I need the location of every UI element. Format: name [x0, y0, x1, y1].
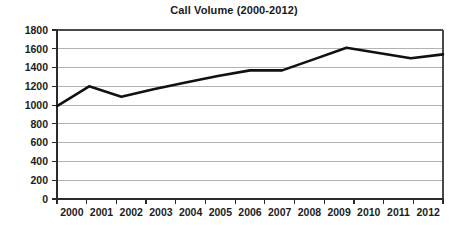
x-axis-tick-label: 2012 — [416, 206, 440, 218]
x-axis-tick-label: 2004 — [179, 206, 203, 218]
chart-figure: Call Volume (2000-2012) 1800160014001200… — [0, 0, 468, 232]
gridlines-group — [57, 49, 443, 180]
y-axis-labels-group: 180016001400120010008006004002000 — [25, 24, 49, 205]
x-axis-tick-label: 2001 — [90, 206, 114, 218]
y-axis-tick-label: 1200 — [25, 80, 49, 92]
x-axis-tick-label: 2005 — [209, 206, 233, 218]
x-axis-tick-label: 2010 — [357, 206, 381, 218]
x-axis-tick-label: 2008 — [298, 206, 322, 218]
x-axis-labels-group: 2000200120022003200420052006200720082009… — [60, 206, 440, 218]
y-axis-tick-label: 800 — [30, 118, 48, 130]
y-axis-tick-label: 1600 — [25, 43, 49, 55]
line-chart-plot: 180016001400120010008006004002000 200020… — [0, 0, 468, 232]
x-axis-tick-label: 2006 — [238, 206, 262, 218]
y-axis-tick-label: 1400 — [25, 61, 49, 73]
x-axis-tick-label: 2011 — [387, 206, 410, 218]
y-axis-tick-label: 200 — [30, 174, 48, 186]
x-axis-tick-label: 2002 — [120, 206, 144, 218]
y-axis-tick-label: 400 — [30, 155, 48, 167]
y-axis-tick-label: 1000 — [25, 99, 49, 111]
y-axis-tick-label: 1800 — [25, 24, 49, 36]
y-axis-tick-label: 600 — [30, 136, 48, 148]
x-axis-tick-label: 2003 — [149, 206, 173, 218]
y-axis-tick-label: 0 — [42, 193, 48, 205]
x-axis-tick-label: 2009 — [327, 206, 351, 218]
x-axis-tick-label: 2007 — [268, 206, 292, 218]
data-series-line — [57, 48, 443, 106]
x-axis-tick-label: 2000 — [60, 206, 84, 218]
